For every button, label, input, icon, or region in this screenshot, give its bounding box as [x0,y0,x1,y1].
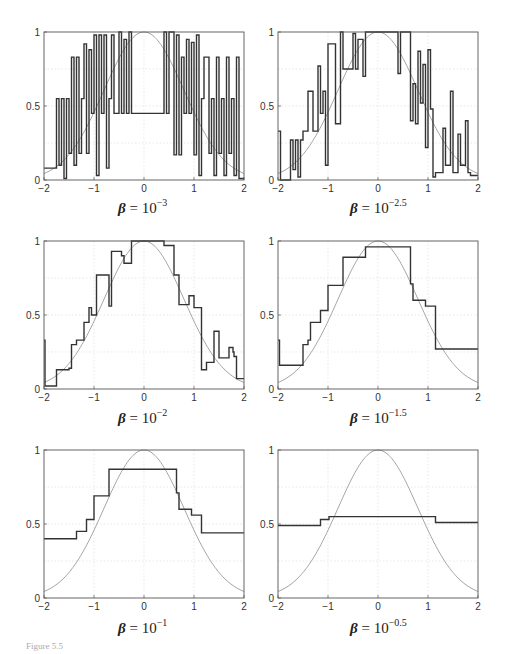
y-tick-label: 0 [268,175,274,186]
x-tick-label: 0 [375,183,381,194]
caption-beta-1e-3: β = 10−3 [118,198,167,217]
beta-symbol: β [118,410,126,426]
plot-svg: −2−101200.51 [20,22,254,202]
y-tick-label: 1 [268,445,274,456]
y-tick-label: 0 [34,593,40,604]
x-tick-label: 2 [475,183,481,194]
x-tick-label: −2 [272,183,284,194]
caption-beta-1e-1: β = 10−1 [118,618,167,637]
plot-svg: −2−101200.51 [254,231,488,411]
caption-exponent: −1.5 [389,407,407,418]
plot-svg: −2−101200.51 [20,440,254,620]
caption-exponent: −2.5 [389,197,407,208]
x-tick-label: −1 [88,392,100,403]
x-tick-label: −1 [322,601,334,612]
y-tick-label: 1 [34,236,40,247]
y-tick-label: 0 [34,384,40,395]
subplot-beta-1e-1.5: −2−101200.51 [254,231,488,415]
x-tick-label: 1 [191,392,197,403]
y-tick-label: 1 [268,236,274,247]
caption-exponent: −2 [157,407,168,418]
subplot-beta-1e-1: −2−101200.51 [20,440,254,624]
x-tick-label: 0 [375,392,381,403]
y-tick-label: 0 [34,175,40,186]
x-tick-label: −1 [88,601,100,612]
grid-lines [278,241,478,389]
x-tick-label: 2 [475,392,481,403]
x-tick-label: −2 [38,183,50,194]
grid-lines [44,450,244,598]
y-tick-label: 0 [268,384,274,395]
x-tick-label: 1 [425,183,431,194]
y-tick-label: 0 [268,593,274,604]
caption-exponent: −0.5 [389,617,407,628]
beta-symbol: β [118,620,126,636]
caption-base: = 10 [129,200,156,216]
caption-exponent: −3 [157,197,168,208]
caption-base: = 10 [361,200,388,216]
beta-symbol: β [118,200,126,216]
x-tick-label: −2 [272,392,284,403]
x-tick-label: 1 [191,601,197,612]
caption-base: = 10 [361,620,388,636]
y-tick-label: 0.5 [26,101,40,112]
caption-base: = 10 [129,410,156,426]
y-tick-label: 0.5 [260,101,274,112]
beta-symbol: β [350,620,358,636]
subplot-beta-1e-3: −2−101200.51 [20,22,254,206]
plot-svg: −2−101200.51 [254,22,488,202]
x-tick-label: 1 [425,392,431,403]
figure-label: Figure 5.5 [26,641,63,651]
x-tick-label: −1 [88,183,100,194]
estimate-step-curve [278,247,478,365]
y-tick-label: 0.5 [26,519,40,530]
caption-beta-1e-2: β = 10−2 [118,408,167,427]
figure-grid: −2−101200.51 −2−101200.51 −2−101200.51 −… [0,0,508,654]
x-tick-label: 0 [141,183,147,194]
subplot-beta-1e-2: −2−101200.51 [20,231,254,415]
subplot-beta-1e-2.5: −2−101200.51 [254,22,488,206]
subplot-beta-1e-0.5: −2−101200.51 [254,440,488,624]
y-tick-label: 0.5 [260,310,274,321]
y-tick-label: 1 [268,27,274,38]
x-tick-label: 0 [375,601,381,612]
x-tick-label: −1 [322,183,334,194]
plot-svg: −2−101200.51 [254,440,488,620]
x-tick-label: 0 [141,392,147,403]
y-tick-label: 1 [34,27,40,38]
x-tick-label: −2 [38,601,50,612]
y-tick-label: 0.5 [260,519,274,530]
x-tick-label: 1 [425,601,431,612]
y-tick-label: 1 [34,445,40,456]
caption-beta-1e-1.5: β = 10−1.5 [350,408,407,427]
grid-lines [44,241,244,389]
x-tick-label: −2 [272,601,284,612]
x-tick-label: −1 [322,392,334,403]
beta-symbol: β [350,200,358,216]
beta-symbol: β [350,410,358,426]
x-tick-label: 0 [141,601,147,612]
x-tick-label: 2 [475,601,481,612]
caption-beta-1e-0.5: β = 10−0.5 [350,618,407,637]
plot-svg: −2−101200.51 [20,231,254,411]
caption-base: = 10 [361,410,388,426]
grid-lines [278,450,478,598]
caption-beta-1e-2.5: β = 10−2.5 [350,198,407,217]
x-tick-label: 1 [191,183,197,194]
x-tick-label: 2 [241,601,247,612]
y-tick-label: 0.5 [26,310,40,321]
x-tick-label: −2 [38,392,50,403]
x-tick-label: 2 [241,183,247,194]
caption-base: = 10 [129,620,156,636]
x-tick-label: 2 [241,392,247,403]
caption-exponent: −1 [157,617,168,628]
